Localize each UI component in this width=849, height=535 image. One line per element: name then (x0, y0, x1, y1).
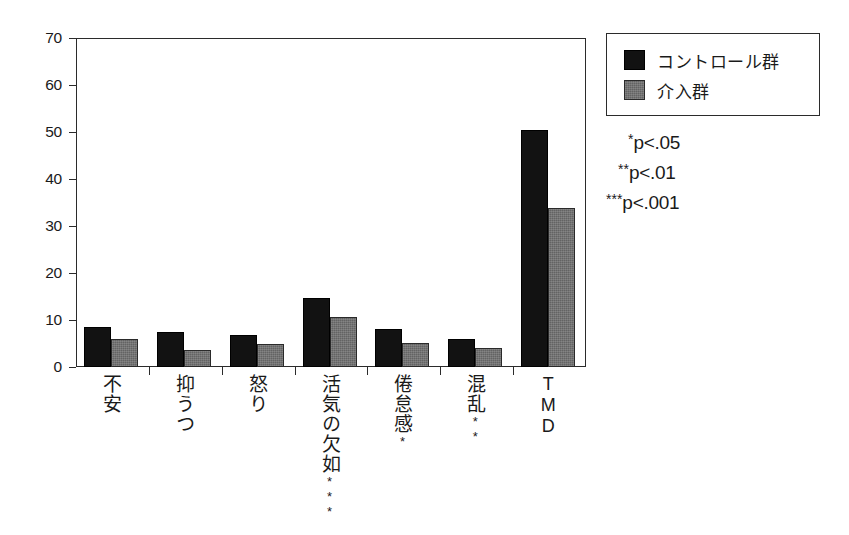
significance-text-1: p<.05 (633, 128, 680, 158)
significance-notes: *p<.05 **p<.01 ***p<.001 (606, 128, 820, 218)
bar-intervention (111, 339, 138, 367)
y-axis-tick-label: 10 (45, 310, 62, 330)
bar-control (157, 332, 184, 367)
y-axis-tick-mark (69, 85, 76, 86)
legend-item-intervention: 介入群 (624, 75, 819, 105)
bar-group (513, 38, 586, 367)
significance-text-3: p<.001 (622, 188, 679, 218)
y-axis-tick-label: 30 (45, 216, 62, 236)
y-axis-tick-mark (69, 273, 76, 274)
legend-label-control: コントロール群 (657, 48, 780, 73)
bars-layer (76, 38, 586, 367)
bar-group (149, 38, 222, 367)
bar-intervention (257, 344, 284, 368)
bar-intervention (548, 208, 575, 367)
bar-intervention (475, 348, 502, 367)
significance-note-p05: *p<.05 (606, 128, 820, 158)
y-axis-tick-label: 20 (45, 263, 62, 283)
bar-group (440, 38, 513, 367)
bar-group (76, 38, 149, 367)
x-axis-label: 活気の欠如*** (319, 374, 340, 519)
bar-control (448, 339, 475, 367)
bar-intervention (184, 350, 211, 367)
x-axis-labels: 不安抑うつ怒り活気の欠如***倦怠感*混乱**TMD (76, 374, 586, 524)
y-axis-tick-mark (69, 38, 76, 39)
y-axis-tick-label: 50 (45, 122, 62, 142)
x-axis-label: 倦怠感* (392, 374, 413, 449)
y-axis-tick-label: 0 (54, 357, 62, 377)
x-axis-label: 不安 (101, 374, 122, 414)
bar-control (84, 327, 111, 367)
significance-note-p01: **p<.01 (606, 158, 820, 188)
bar-intervention (330, 317, 357, 367)
legend-item-control: コントロール群 (624, 45, 819, 75)
y-axis-tick-label: 70 (45, 28, 62, 48)
legend-swatch-intervention-icon (624, 80, 645, 100)
bar-group (222, 38, 295, 367)
bar-control (375, 329, 402, 367)
bar-control (521, 130, 548, 367)
y-axis-tick-label: 60 (45, 75, 62, 95)
y-axis-tick-mark (69, 132, 76, 133)
bar-group (295, 38, 368, 367)
y-axis-tick-mark (69, 367, 76, 368)
x-axis-label-significance: * (392, 434, 413, 449)
legend-swatch-control-icon (624, 50, 645, 70)
x-axis-label-significance: *** (319, 474, 340, 519)
legend-label-intervention: 介入群 (657, 78, 710, 103)
y-axis: 010203040506070 (0, 0, 76, 405)
bar-control (303, 298, 330, 367)
y-axis-tick-label: 40 (45, 169, 62, 189)
x-axis-label: 怒り (246, 374, 267, 414)
significance-text-2: p<.01 (629, 158, 676, 188)
bar-control (230, 335, 257, 367)
x-axis-label: 抑うつ (173, 374, 194, 434)
x-axis-label-significance: ** (465, 414, 486, 444)
legend: コントロール群 介入群 (606, 33, 820, 116)
significance-note-p001: ***p<.001 (606, 188, 820, 218)
x-axis-label: 混乱** (465, 374, 486, 444)
x-axis-label: TMD (541, 374, 556, 437)
y-axis-tick-mark (69, 179, 76, 180)
bar-chart: 010203040506070 不安抑うつ怒り活気の欠如***倦怠感*混乱**T… (0, 0, 849, 535)
bar-group (367, 38, 440, 367)
y-axis-tick-mark (69, 226, 76, 227)
significance-stars-2: ** (618, 158, 629, 188)
significance-stars-3: *** (606, 188, 622, 218)
y-axis-tick-mark (69, 320, 76, 321)
bar-intervention (402, 343, 429, 367)
